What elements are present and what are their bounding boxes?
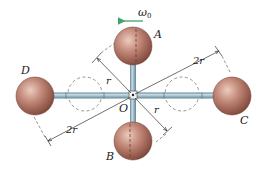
hub-center-dot xyxy=(132,94,134,96)
dim-dashed-extension-C xyxy=(222,56,231,74)
label-r-lower: r xyxy=(154,104,160,115)
dim-extension-upper-right xyxy=(215,46,222,56)
dim-dashed-extension-D xyxy=(34,117,45,137)
label-2r-lower: 2r xyxy=(65,124,78,135)
sphere-B xyxy=(114,122,152,160)
sphere-D xyxy=(16,77,54,115)
omega-label: ω0 xyxy=(138,6,151,20)
label-A: A xyxy=(153,28,162,41)
dim-extension-upper-left xyxy=(92,53,101,63)
sphere-C xyxy=(213,77,251,115)
dim-dashed-extension-B xyxy=(156,134,166,142)
label-r-upper: r xyxy=(106,75,112,86)
label-2r-upper: 2r xyxy=(192,55,205,66)
rotating-spheres-diagram: ω0 A B C D O r r 2r 2r xyxy=(0,0,263,170)
label-O: O xyxy=(119,102,128,115)
label-B: B xyxy=(105,150,114,163)
label-D: D xyxy=(20,64,30,77)
dim-extension-lower-left xyxy=(45,136,51,146)
sphere-A xyxy=(114,27,152,65)
label-C: C xyxy=(240,114,249,127)
dim-dashed-extension-A xyxy=(101,42,116,53)
